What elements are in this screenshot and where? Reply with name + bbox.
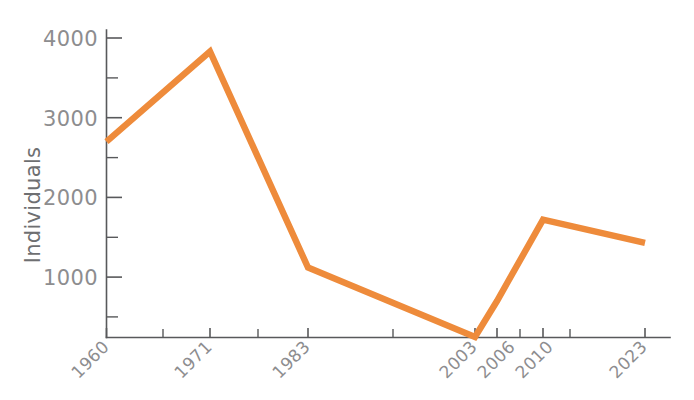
x-tick-label-2003: 2003 [435, 337, 481, 383]
line-chart: 4000 3000 2000 1000 Individuals 1960 197… [0, 0, 694, 400]
x-tick-label-2023: 2023 [605, 337, 651, 383]
y-tick-label-3000: 3000 [43, 107, 98, 131]
data-series-line [107, 52, 646, 337]
y-tick-label-1000: 1000 [43, 266, 98, 290]
x-tick-label-2006: 2006 [473, 337, 519, 383]
x-tick-label-2010: 2010 [511, 337, 557, 383]
x-tick-label-1960: 1960 [67, 337, 113, 383]
x-tick-label-1983: 1983 [268, 337, 314, 383]
x-tick-label-1971: 1971 [170, 337, 216, 383]
y-tick-label-2000: 2000 [43, 186, 98, 210]
chart-page: 4000 3000 2000 1000 Individuals 1960 197… [0, 0, 694, 400]
y-axis-title: Individuals [21, 147, 45, 264]
y-tick-label-4000: 4000 [43, 27, 98, 51]
